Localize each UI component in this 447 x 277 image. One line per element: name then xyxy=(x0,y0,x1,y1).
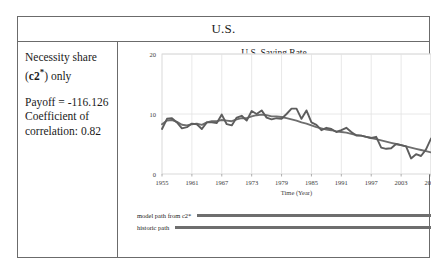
c2-label-line: (c2*) only xyxy=(25,65,111,83)
description-cell: Necessity share (c2*) only Payoff = -116… xyxy=(18,42,118,257)
svg-text:1991: 1991 xyxy=(335,179,348,186)
spacer xyxy=(25,83,111,95)
svg-text:Time (Year): Time (Year) xyxy=(281,189,312,197)
chart-legend: model path from c2* historic path xyxy=(137,211,431,235)
svg-text:0: 0 xyxy=(153,171,156,178)
legend-label-historic: historic path xyxy=(137,223,169,232)
only-suffix: ) only xyxy=(44,69,71,81)
payoff-value: Payoff = -116.126 xyxy=(25,95,111,110)
svg-text:1979: 1979 xyxy=(275,179,288,186)
c2-symbol: c2 xyxy=(29,69,40,81)
svg-text:2009: 2009 xyxy=(425,179,432,186)
panel-body: Necessity share (c2*) only Payoff = -116… xyxy=(18,42,429,257)
svg-text:1997: 1997 xyxy=(365,179,379,186)
svg-text:10: 10 xyxy=(150,111,157,118)
svg-text:1985: 1985 xyxy=(305,179,318,186)
coefficient-label: Coefficient of xyxy=(25,109,111,124)
legend-item-model: model path from c2* xyxy=(137,211,431,220)
svg-text:1973: 1973 xyxy=(245,179,258,186)
chart-cell: U.S. Saving Rate 01020195519611967197319… xyxy=(119,42,429,257)
legend-swatch-model xyxy=(197,214,431,217)
legend-label-model: model path from c2* xyxy=(137,211,191,220)
screenshot-root: U.S. Necessity share (c2*) only Payoff =… xyxy=(0,0,447,277)
page-title: U.S. xyxy=(212,21,236,37)
panel-header: U.S. xyxy=(18,17,429,42)
legend-swatch-historic xyxy=(175,226,431,229)
svg-text:2003: 2003 xyxy=(395,179,408,186)
legend-item-historic: historic path xyxy=(137,223,431,232)
svg-text:1955: 1955 xyxy=(156,179,169,186)
coefficient-value: correlation: 0.82 xyxy=(25,124,111,139)
necessity-share-line: Necessity share xyxy=(25,50,111,65)
svg-text:1967: 1967 xyxy=(215,179,229,186)
result-panel: U.S. Necessity share (c2*) only Payoff =… xyxy=(17,16,430,258)
svg-text:1961: 1961 xyxy=(185,179,198,186)
svg-text:20: 20 xyxy=(150,51,157,58)
